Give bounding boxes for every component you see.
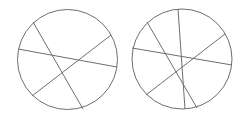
left-chord-3: [32, 35, 111, 96]
chord-diagram: [0, 0, 242, 117]
left-chord-1: [33, 22, 83, 109]
right-circle-group: [132, 9, 232, 109]
right-chord-1: [147, 22, 197, 108]
left-circle-group: [18, 10, 118, 110]
right-chord-3: [146, 34, 225, 95]
left-circle: [18, 10, 118, 110]
left-chord-2: [18, 49, 117, 67]
right-chord-4: [178, 9, 185, 109]
